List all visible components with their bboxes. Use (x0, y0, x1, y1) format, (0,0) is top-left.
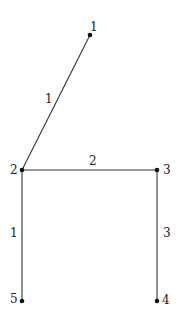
node-2 (20, 168, 25, 173)
node-label-1: 1 (90, 20, 98, 34)
edge-weights: 1 2 3 1 (10, 92, 171, 240)
edges (22, 35, 157, 301)
edge-weight-3-4: 3 (163, 226, 171, 240)
nodes (20, 33, 160, 304)
node-label-4: 4 (162, 293, 170, 307)
edge-weight-2-3: 2 (89, 154, 97, 168)
graph-diagram: 1 2 3 4 5 1 2 3 1 (0, 0, 182, 319)
node-label-3: 3 (163, 163, 171, 177)
node-label-5: 5 (10, 292, 18, 306)
edge-1-2 (22, 35, 90, 170)
node-5 (20, 299, 25, 304)
edge-weight-2-5: 1 (10, 226, 18, 240)
node-label-2: 2 (10, 163, 18, 177)
node-4 (155, 299, 160, 304)
node-3 (155, 168, 160, 173)
edge-weight-1-2: 1 (45, 92, 53, 106)
